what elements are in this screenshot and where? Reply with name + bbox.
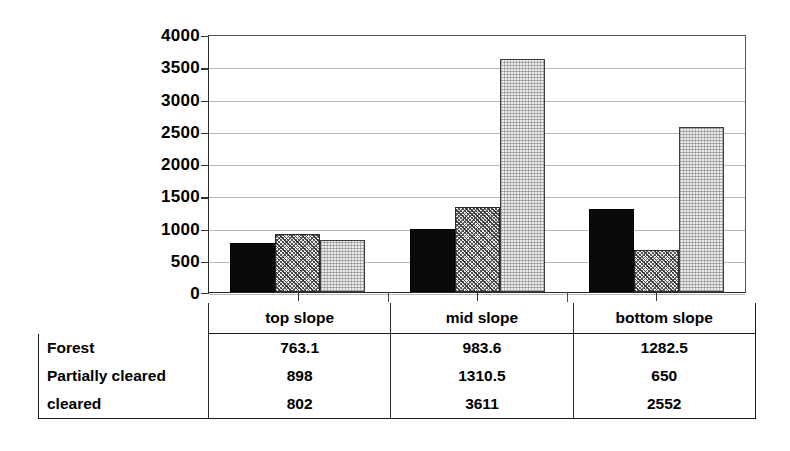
bar-top-slope-partially-cleared xyxy=(275,234,320,292)
plot-area xyxy=(208,35,746,293)
y-tick-label: 1000 xyxy=(10,220,200,237)
y-tick-label: 0 xyxy=(10,285,200,302)
row-label: cleared xyxy=(39,390,209,419)
column-header-mid-slope: mid slope xyxy=(391,303,573,334)
y-axis-tick xyxy=(201,165,209,166)
y-axis-tick-labels: 4000 3500 3000 2500 2000 1500 1000 500 0 xyxy=(0,0,200,305)
table-cell: 983.6 xyxy=(391,334,573,363)
bar-mid-slope-partially-cleared xyxy=(455,207,500,292)
y-tick-label: 2000 xyxy=(10,156,200,173)
y-axis-tick xyxy=(201,262,209,263)
bar-mid-slope-cleared xyxy=(500,59,545,292)
bar-bottom-slope-cleared xyxy=(679,127,724,292)
table-cell: 802 xyxy=(209,390,391,419)
x-axis-tick xyxy=(477,292,478,301)
group-divider xyxy=(567,292,568,302)
y-tick-label: 500 xyxy=(10,252,200,269)
bar-bottom-slope-forest xyxy=(589,209,634,292)
table-cell: 898 xyxy=(209,362,391,390)
bar-bottom-slope-partially-cleared xyxy=(634,250,679,292)
y-tick-label: 4000 xyxy=(10,27,200,44)
table-row: Partially cleared8981310.5650 xyxy=(39,362,756,390)
table-cell: 763.1 xyxy=(209,334,391,363)
bar-mid-slope-forest xyxy=(410,229,455,292)
x-axis-tick xyxy=(656,292,657,301)
y-axis-tick xyxy=(201,133,209,134)
y-tick-label: 2500 xyxy=(10,123,200,140)
y-axis-tick xyxy=(201,36,209,37)
group-divider xyxy=(388,292,389,302)
table-cell: 1282.5 xyxy=(573,334,755,363)
data-table: top slope mid slope bottom slope Forest7… xyxy=(38,303,756,419)
table-row: Forest763.1983.61282.5 xyxy=(39,334,756,363)
y-tick-label: 3500 xyxy=(10,59,200,76)
table-cell: 650 xyxy=(573,362,755,390)
table-cell: 1310.5 xyxy=(391,362,573,390)
y-tick-label: 1500 xyxy=(10,188,200,205)
y-axis-tick xyxy=(201,230,209,231)
table-cell: 3611 xyxy=(391,390,573,419)
x-axis-tick xyxy=(298,292,299,301)
row-label: Partially cleared xyxy=(39,362,209,390)
column-header-top-slope: top slope xyxy=(209,303,391,334)
bars-layer xyxy=(209,36,745,292)
bar-top-slope-cleared xyxy=(320,240,365,292)
table-corner-cell xyxy=(39,303,209,334)
plot-region: 4000 3500 3000 2500 2000 1500 1000 500 0 xyxy=(0,0,790,305)
row-label: Forest xyxy=(39,334,209,363)
column-header-bottom-slope: bottom slope xyxy=(573,303,755,334)
y-axis-tick xyxy=(201,197,209,198)
table-header-row: top slope mid slope bottom slope xyxy=(39,303,756,334)
y-tick-label: 3000 xyxy=(10,91,200,108)
y-axis-tick xyxy=(201,101,209,102)
y-axis-tick xyxy=(201,293,209,294)
data-table-region: top slope mid slope bottom slope Forest7… xyxy=(38,303,755,431)
table-row: cleared80236112552 xyxy=(39,390,756,419)
y-axis-tick xyxy=(201,68,209,69)
table-cell: 2552 xyxy=(573,390,755,419)
chart-figure: 4000 3500 3000 2500 2000 1500 1000 500 0 xyxy=(0,0,790,451)
bar-top-slope-forest xyxy=(230,243,275,292)
table-body: Forest763.1983.61282.5Partially cleared8… xyxy=(39,334,756,419)
